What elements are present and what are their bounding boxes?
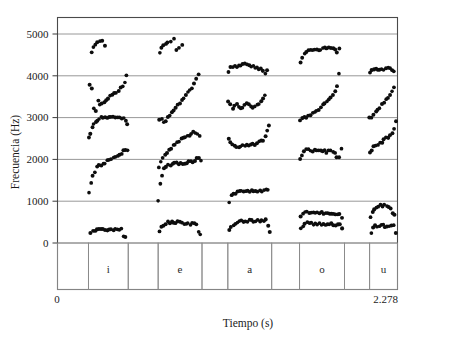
data-point bbox=[263, 93, 267, 97]
data-point bbox=[172, 37, 176, 41]
data-point bbox=[335, 84, 339, 88]
data-point bbox=[371, 113, 375, 117]
data-point bbox=[388, 93, 392, 97]
data-point bbox=[338, 222, 342, 226]
data-point bbox=[392, 127, 396, 131]
data-point bbox=[264, 217, 268, 221]
data-point bbox=[88, 83, 92, 87]
data-point bbox=[267, 124, 271, 128]
data-point bbox=[392, 213, 396, 217]
y-tick-label-3000: 3000 bbox=[27, 111, 50, 123]
data-point bbox=[103, 44, 107, 48]
data-point bbox=[265, 129, 269, 133]
data-point bbox=[194, 77, 198, 81]
data-point bbox=[157, 166, 161, 170]
data-point bbox=[337, 155, 341, 159]
data-point bbox=[89, 181, 93, 185]
data-point bbox=[94, 109, 98, 113]
data-point bbox=[380, 141, 384, 145]
data-point bbox=[265, 68, 269, 72]
data-point bbox=[87, 191, 91, 195]
y-tick-label-0: 0 bbox=[43, 237, 49, 249]
data-point bbox=[299, 60, 303, 64]
data-point bbox=[120, 152, 124, 156]
data-point bbox=[159, 160, 163, 164]
data-point bbox=[169, 40, 173, 44]
segment-label-e: e bbox=[178, 263, 183, 275]
data-point bbox=[194, 222, 198, 226]
data-point bbox=[158, 182, 162, 186]
data-point bbox=[390, 131, 394, 135]
data-point bbox=[337, 212, 341, 216]
y-tick-label-4000: 4000 bbox=[27, 70, 50, 82]
data-point bbox=[90, 50, 94, 54]
data-point bbox=[165, 41, 169, 45]
data-point bbox=[197, 72, 201, 76]
data-point bbox=[93, 170, 97, 174]
data-point bbox=[392, 223, 396, 227]
data-point bbox=[177, 46, 181, 50]
data-point bbox=[227, 201, 231, 205]
data-point bbox=[394, 231, 398, 235]
data-point bbox=[87, 136, 91, 140]
data-point bbox=[300, 56, 304, 60]
data-point bbox=[125, 122, 129, 126]
data-point bbox=[90, 86, 94, 90]
formant-frequency-figure: 010002000300040005000 ieaou 0 2.278 Tiem… bbox=[0, 0, 453, 342]
data-point bbox=[227, 137, 231, 141]
data-point bbox=[178, 102, 182, 106]
data-point bbox=[121, 84, 125, 88]
y-axis-title: Frecuencia (Hz) bbox=[9, 115, 22, 190]
data-point bbox=[227, 70, 231, 74]
data-point bbox=[198, 134, 202, 138]
data-point bbox=[370, 149, 374, 153]
data-point bbox=[161, 156, 165, 160]
y-tick-label-2000: 2000 bbox=[27, 153, 50, 165]
data-point bbox=[390, 90, 394, 94]
data-point bbox=[103, 162, 107, 166]
data-point bbox=[164, 119, 168, 123]
data-point bbox=[337, 72, 341, 76]
data-point bbox=[165, 151, 169, 155]
data-point bbox=[394, 119, 398, 123]
data-point bbox=[124, 119, 128, 123]
segment-label-a: a bbox=[247, 263, 252, 275]
data-point bbox=[199, 159, 203, 163]
segment-label-i: i bbox=[107, 263, 110, 275]
data-point bbox=[177, 140, 181, 144]
data-point bbox=[156, 199, 160, 203]
data-point bbox=[264, 72, 268, 76]
data-point bbox=[182, 96, 186, 100]
data-point bbox=[300, 154, 304, 158]
data-point bbox=[335, 51, 339, 55]
data-point bbox=[340, 147, 344, 151]
data-point bbox=[192, 82, 196, 86]
data-point bbox=[382, 101, 386, 105]
data-point bbox=[333, 89, 337, 93]
data-point bbox=[125, 73, 129, 77]
data-point bbox=[268, 230, 272, 234]
data-point bbox=[88, 132, 92, 136]
chart-canvas: 010002000300040005000 ieaou 0 2.278 Tiem… bbox=[0, 0, 453, 342]
data-point bbox=[190, 86, 194, 90]
data-point bbox=[91, 174, 95, 178]
data-point bbox=[264, 134, 268, 138]
data-point bbox=[298, 157, 302, 161]
data-point bbox=[369, 215, 373, 219]
data-point bbox=[160, 117, 164, 121]
y-tick-label-5000: 5000 bbox=[27, 28, 50, 40]
data-point bbox=[158, 230, 162, 234]
data-point bbox=[117, 89, 121, 93]
data-point bbox=[123, 235, 127, 239]
data-point bbox=[123, 81, 127, 85]
data-point bbox=[266, 188, 270, 192]
data-point bbox=[168, 114, 172, 118]
segment-label-o: o bbox=[319, 263, 325, 275]
data-point bbox=[158, 51, 162, 55]
segment-label-u: u bbox=[381, 263, 387, 275]
data-point bbox=[228, 102, 232, 106]
data-point bbox=[261, 139, 265, 143]
x-tick-label-start: 0 bbox=[54, 293, 60, 305]
data-point bbox=[340, 216, 344, 220]
data-point bbox=[96, 99, 100, 103]
